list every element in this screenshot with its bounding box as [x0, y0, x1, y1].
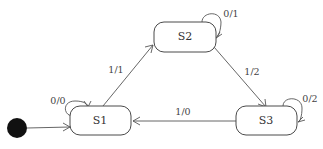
arrowhead-icon	[298, 117, 305, 122]
state-s3: S3	[236, 106, 297, 135]
initial-state-dot	[7, 118, 27, 138]
state-s2: S2	[154, 22, 216, 52]
transition-s2-s3	[214, 47, 266, 107]
state-label-s3: S3	[259, 114, 274, 127]
state-label-s1: S1	[93, 114, 108, 127]
transition-label-s1-s2: 1/1	[108, 64, 123, 75]
transition-label-s2-s2: 0/1	[223, 8, 238, 19]
state-label-s2: S2	[178, 30, 193, 43]
transition-label-s1-s1: 0/0	[50, 95, 65, 106]
initial-transition-arrow	[27, 127, 70, 128]
transition-label-s3-s1: 1/0	[175, 106, 190, 117]
transition-s1-s2	[103, 45, 153, 106]
state-s1: S1	[70, 106, 131, 135]
state-diagram: 1/1 1/2 1/0 0/0 0/1 0/2 S1 S2 S3	[0, 0, 323, 149]
arrowhead-icon	[216, 32, 222, 38]
transition-label-s2-s3: 1/2	[244, 66, 259, 77]
transition-label-s3-s3: 0/2	[302, 93, 317, 104]
